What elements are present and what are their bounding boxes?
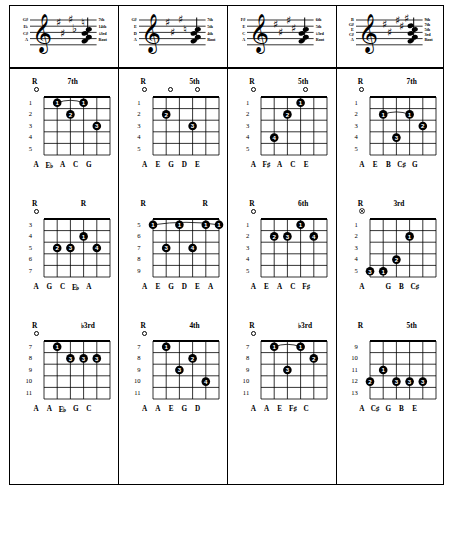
chord-diagram[interactable]: R♭3rd13337891011AAE♭GC [36,321,114,330]
chord-diagram[interactable]: RR231434567AGCE♭A [36,199,114,208]
fret-number: 3 [129,123,141,130]
degree-label-right: 3rd [393,199,404,208]
svg-text:2: 2 [190,355,194,362]
degree-label-right: 5th [407,321,417,330]
note-name: G [381,405,395,413]
note-name: G [164,161,178,169]
open-string-marker [251,331,256,336]
open-string-marker [34,209,39,214]
chord-diagram[interactable]: R4th13247891011AAEGD [145,321,223,330]
fret-number: 8 [237,355,249,362]
fret-number: 4 [237,256,249,263]
staff-right-label: 7th [99,17,119,22]
svg-text:3: 3 [164,244,168,251]
staff-right-label: 5th [207,24,227,29]
degree-label-left: R [141,199,146,208]
svg-text:♭: ♭ [72,22,77,35]
fret-number: 9 [237,367,249,374]
fretboard-grid: 2314 [36,216,118,282]
fret-number: 5 [20,245,32,252]
staff-left-label: C♯ [12,31,28,36]
fret-number: 10 [346,355,358,362]
note-name: A [29,283,43,291]
note-name: A [273,283,287,291]
open-string-marker [303,87,308,92]
staff-left-label: A [121,37,137,42]
note-name: A [355,405,369,413]
staff-notation-4: 𝄞♯♯♯♯♯BG♯EC♯A9th7th5th3rdRoot [336,6,445,69]
svg-text:♯: ♯ [291,22,296,35]
degree-label-left: R [141,321,146,330]
svg-text:1: 1 [164,343,168,350]
fret-number: 10 [237,378,249,385]
svg-text:3: 3 [394,134,398,141]
note-name: E [273,405,287,413]
svg-text:2: 2 [69,111,73,118]
svg-text:1: 1 [177,221,181,228]
staff-left-label: E [229,24,245,29]
fretboard-grid: 2314 [253,216,335,282]
svg-text:3: 3 [95,122,99,129]
chord-diagram[interactable]: RR13141156789AEGDEA [145,199,223,208]
degree-label-right: 7th [68,77,78,86]
svg-text:♯: ♯ [170,26,175,39]
fretboard-grid: 1213 [36,94,118,160]
staff-left-label: E [121,24,137,29]
staff-notation-3: 𝄞♯♯♯♯F♯ECA6th5th♭3rdRoot [227,6,336,69]
svg-text:1: 1 [151,221,155,228]
staff-right-label: Root [99,37,119,42]
fret-number: 4 [129,134,141,141]
degree-label-left: R [32,199,37,208]
staff-notation-1: 𝄞♯♯♯♭♮G♯E♭C♯A7th14th♭3rdRoot [10,6,119,69]
fret-number: 1 [237,222,249,229]
chord-diagram[interactable]: R7th131212345AEBC♯G [362,77,440,86]
chord-diagram[interactable]: R3rd312112345AGBC♯ [362,199,440,208]
staff-right-label: ♭3rd [316,31,336,36]
note-name: A [259,405,273,413]
svg-text:3: 3 [69,355,73,362]
fret-number: 5 [129,146,141,153]
staff-left-label: F♯ [229,17,245,22]
fret-number: 9 [129,367,141,374]
open-string-marker [142,331,147,336]
chord-diagram[interactable]: R5th42112345AF♯ACE [253,77,331,86]
fret-number: 5 [237,146,249,153]
chord-diagram[interactable]: R7th121312345AE♭ACG [36,77,114,86]
diagram-band: R7th121312345AE♭ACGR5th2312345AEGDER5th4… [10,69,443,484]
fret-number: 3 [20,222,32,229]
staff-right-label: Root [316,37,336,42]
chord-diagram[interactable]: R5th21333910111213AC♯GBE [362,321,440,330]
svg-text:1: 1 [381,366,385,373]
svg-text:3: 3 [82,355,86,362]
notation-band: 𝄞♯♯♯♭♮G♯E♭C♯A7th14th♭3rdRoot𝄞♯♯♯♮G♯EDA7t… [10,6,443,69]
fret-number: 1 [129,100,141,107]
svg-text:1: 1 [273,343,277,350]
chord-diagram[interactable]: R♭3rd13127891011AAEF♯C [253,321,331,330]
fretboard-grid: 21333 [362,338,444,404]
fret-number: 3 [346,123,358,130]
fret-number: 4 [346,134,358,141]
degree-label-left: R [249,199,254,208]
svg-text:4: 4 [273,134,277,141]
open-string-marker [168,87,173,92]
svg-text:1: 1 [381,111,385,118]
fretboard-grid: 1312 [362,94,444,160]
fret-number: 11 [129,390,141,397]
note-name: G [177,405,191,413]
note-name: D [177,283,191,291]
note-name: A [138,283,152,291]
chord-diagram[interactable]: R6th231412345AEACF♯ [253,199,331,208]
open-string-marker [251,87,256,92]
degree-label-right: 7th [407,77,417,86]
chord-diagram[interactable]: R5th2312345AEGDE [145,77,223,86]
staff-left-label: D [121,31,137,36]
degree-label-left: R [141,77,146,86]
fret-number: 6 [20,256,32,263]
fret-number: 7 [20,268,32,275]
degree-label-left: R [358,199,363,208]
degree-label-left: R [358,321,363,330]
staff-left-label: A [229,37,245,42]
fret-number: 7 [20,344,32,351]
note-name: D [177,161,191,169]
degree-label-left: R [32,77,37,86]
